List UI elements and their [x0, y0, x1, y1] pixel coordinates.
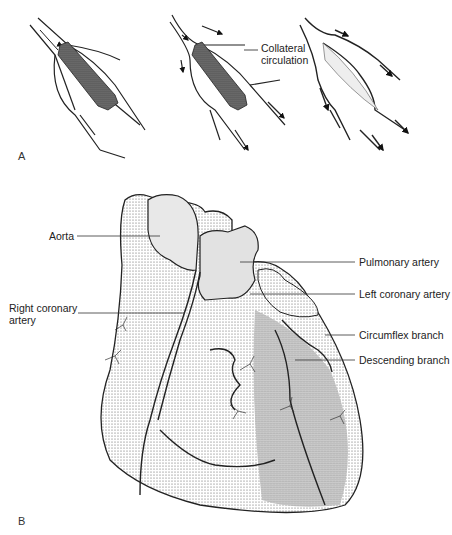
label-descending-branch: Descending branch: [359, 354, 449, 366]
pulmonary-shape: [198, 226, 258, 300]
label-left-coronary-artery: Left coronary artery: [359, 288, 450, 300]
label-circumflex-branch: Circumflex branch: [359, 329, 444, 341]
panel-label-b: B: [18, 515, 25, 527]
left-ventricle-shade: [254, 310, 348, 507]
clot: [58, 42, 118, 110]
heart: [101, 195, 363, 513]
clot: [192, 42, 247, 110]
panel-label-a: A: [18, 150, 25, 162]
label-collateral-circulation: Collateral circulation: [261, 42, 308, 66]
label-aorta: Aorta: [49, 230, 74, 242]
label-pulmonary-artery: Pulmonary artery: [359, 256, 439, 268]
label-right-coronary-artery: Right coronary artery: [9, 302, 77, 326]
